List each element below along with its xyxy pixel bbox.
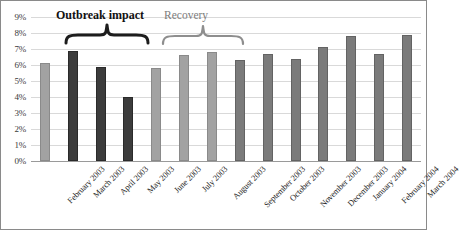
bar-september-2003[interactable] — [235, 60, 245, 161]
bar-march-2004[interactable] — [402, 35, 412, 161]
y-tick-label-5: 5% — [14, 76, 26, 86]
y-tick-label-6: 6% — [14, 60, 26, 70]
annotation-recovery-brace — [161, 24, 245, 46]
bar-slot — [365, 17, 393, 161]
annotation-recovery-label: Recovery — [164, 9, 208, 21]
y-tick-label-2: 2% — [14, 124, 26, 134]
x-tick-label-july-2003: July 2003 — [200, 164, 230, 194]
y-tick-label-8: 8% — [14, 28, 26, 38]
bar-slot — [393, 17, 421, 161]
bar-may-2003[interactable] — [123, 97, 133, 161]
y-tick-label-9: 9% — [14, 12, 26, 22]
bar-november-2003[interactable] — [291, 59, 301, 161]
y-tick-label-4: 4% — [14, 92, 26, 102]
x-tick-label-august-2003: August 2003 — [231, 164, 268, 201]
bar-slot — [337, 17, 365, 161]
annotation-outbreak-impact-brace — [64, 23, 150, 45]
y-tick-label-0: 0% — [14, 156, 26, 166]
x-tick-label-june-2003: June 2003 — [172, 164, 203, 195]
y-tick-label-1: 1% — [14, 140, 26, 150]
bar-december-2003[interactable] — [318, 47, 328, 161]
bar-april-2003[interactable] — [96, 67, 106, 161]
bar-july-2003[interactable] — [179, 55, 189, 161]
y-tick-label-3: 3% — [14, 108, 26, 118]
bar-june-2003[interactable] — [151, 68, 161, 161]
bar-february-2003[interactable] — [40, 63, 50, 161]
bar-february-2004[interactable] — [374, 54, 384, 161]
annotation-outbreak-impact-label: Outbreak impact — [56, 8, 144, 23]
bar-slot — [282, 17, 310, 161]
y-axis: 9%8%7%6%5%4%3%2%1%0% — [1, 17, 29, 161]
bar-january-2004[interactable] — [346, 36, 356, 161]
bar-slot — [31, 17, 59, 161]
x-axis: February 2003March 2003April 2003May 200… — [31, 162, 421, 230]
bar-october-2003[interactable] — [263, 54, 273, 161]
bar-august-2003[interactable] — [207, 52, 217, 161]
bar-slot — [254, 17, 282, 161]
bar-march-2003[interactable] — [68, 51, 78, 161]
x-tick-label-may-2003: May 2003 — [144, 164, 175, 195]
y-tick-label-7: 7% — [14, 44, 26, 54]
bar-slot — [310, 17, 338, 161]
